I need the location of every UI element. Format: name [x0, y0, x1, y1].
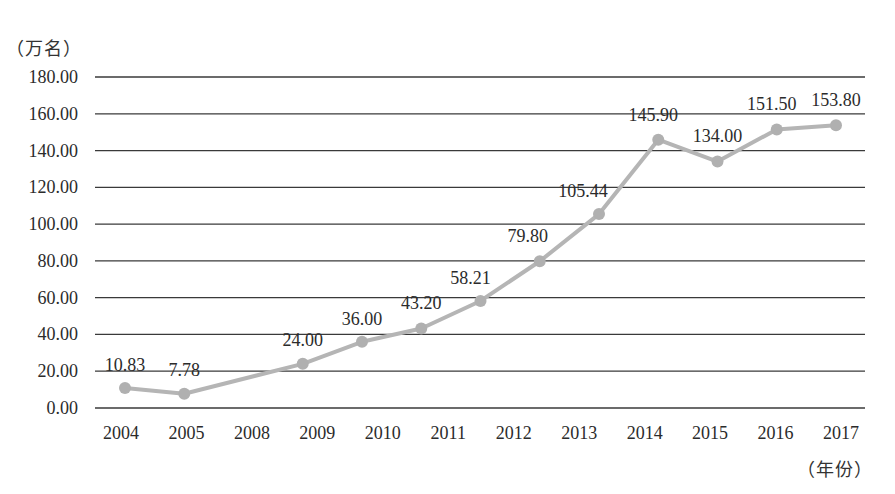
data-point-marker [534, 255, 546, 267]
data-label: 58.21 [450, 268, 491, 288]
y-axis-ticks: 0.0020.0040.0060.0080.00100.00120.00140.… [29, 67, 79, 418]
y-tick-label: 20.00 [38, 361, 79, 381]
y-tick-label: 40.00 [38, 324, 79, 344]
data-label: 105.44 [558, 181, 608, 201]
data-point-marker [297, 358, 309, 370]
y-tick-label: 120.00 [29, 177, 79, 197]
data-label: 153.80 [811, 90, 861, 110]
data-point-marker [475, 295, 487, 307]
gridlines [95, 77, 865, 408]
x-tick-label: 2013 [561, 423, 597, 443]
x-axis-unit-label: （年份） [797, 455, 873, 481]
y-tick-label: 160.00 [29, 104, 79, 124]
y-tick-label: 0.00 [47, 398, 79, 418]
data-label: 7.78 [169, 360, 201, 380]
data-point-marker [356, 336, 368, 348]
data-point-marker [119, 382, 131, 394]
y-tick-label: 60.00 [38, 288, 79, 308]
y-tick-label: 100.00 [29, 214, 79, 234]
x-tick-label: 2017 [823, 423, 859, 443]
data-label: 10.83 [105, 355, 146, 375]
x-tick-label: 2014 [627, 423, 663, 443]
series-line [125, 125, 836, 394]
data-point-marker [415, 323, 427, 335]
data-label: 43.20 [401, 293, 442, 313]
x-tick-label: 2005 [168, 423, 204, 443]
data-label: 134.00 [693, 126, 743, 146]
data-series [119, 119, 842, 400]
data-label: 79.80 [508, 226, 549, 246]
x-tick-label: 2011 [431, 423, 466, 443]
x-tick-label: 2010 [365, 423, 401, 443]
data-point-marker [652, 134, 664, 146]
y-tick-label: 180.00 [29, 67, 79, 87]
x-tick-label: 2009 [299, 423, 335, 443]
data-label: 24.00 [283, 330, 324, 350]
data-point-marker [593, 208, 605, 220]
x-tick-label: 2008 [234, 423, 270, 443]
data-point-marker [178, 388, 190, 400]
x-tick-label: 2016 [758, 423, 794, 443]
data-labels: 10.837.7824.0036.0043.2058.2179.80105.44… [105, 90, 861, 380]
x-axis-ticks: 2004200520082009201020112012201320142015… [103, 423, 859, 443]
data-label: 36.00 [342, 309, 383, 329]
x-tick-label: 2012 [496, 423, 532, 443]
y-tick-label: 140.00 [29, 141, 79, 161]
line-chart: 0.0020.0040.0060.0080.00100.00120.00140.… [0, 0, 895, 494]
data-label: 145.90 [629, 105, 679, 125]
data-point-marker [830, 119, 842, 131]
x-tick-label: 2015 [692, 423, 728, 443]
y-tick-label: 80.00 [38, 251, 79, 271]
data-label: 151.50 [747, 94, 797, 114]
data-point-marker [712, 156, 724, 168]
x-tick-label: 2004 [103, 423, 139, 443]
data-point-marker [771, 123, 783, 135]
